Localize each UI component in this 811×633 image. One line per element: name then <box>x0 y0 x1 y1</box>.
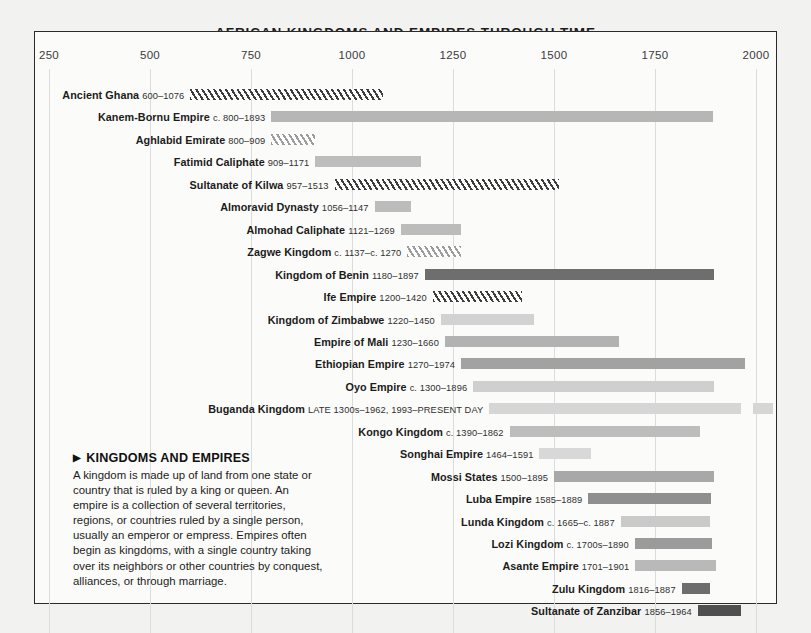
timeline-bar <box>461 358 745 369</box>
timeline-row-label: Kingdom of Benin 1180–1897 <box>275 269 419 281</box>
timeline-bar <box>335 179 560 190</box>
kingdom-dates: 1220–1450 <box>387 316 434 326</box>
timeline-row-label: Mossi States 1500–1895 <box>431 471 548 483</box>
kingdom-dates: c. 1300–1896 <box>410 383 468 393</box>
kingdom-name: Zagwe Kingdom <box>247 246 334 258</box>
timeline-row-label: Ife Empire 1200–1420 <box>324 291 427 303</box>
kingdom-name: Ethiopian Empire <box>315 358 408 370</box>
timeline-bar <box>441 314 534 325</box>
kingdom-dates: c. 800–1893 <box>213 113 265 123</box>
timeline-plot: 25050075010001250150017502000 Ancient Gh… <box>35 32 778 605</box>
timeline-row: Ethiopian Empire 1270–1974 <box>35 355 778 377</box>
kingdom-dates: 1500–1895 <box>501 473 548 483</box>
timeline-bar <box>588 493 711 504</box>
x-axis-tick-label: 1750 <box>642 49 669 61</box>
timeline-row-label: Almohad Caliphate 1121–1269 <box>246 224 394 236</box>
timeline-bar <box>698 605 742 616</box>
kingdom-dates: 1585–1889 <box>535 495 582 505</box>
timeline-row: Zagwe Kingdom c. 1137–c. 1270 <box>35 243 778 265</box>
timeline-row-label: Sultanate of Kilwa 957–1513 <box>190 179 329 191</box>
timeline-bar <box>539 448 590 459</box>
kingdom-dates: c. 1665–c. 1887 <box>547 518 615 528</box>
kingdom-name: Songhai Empire <box>400 448 486 460</box>
timeline-row: Ife Empire 1200–1420 <box>35 288 778 310</box>
timeline-row: Kanem-Bornu Empire c. 800–1893 <box>35 108 778 130</box>
timeline-row-label: Almoravid Dynasty 1056–1147 <box>220 201 368 213</box>
kingdom-name: Zulu Kingdom <box>552 583 628 595</box>
timeline-row: Oyo Empire c. 1300–1896 <box>35 378 778 400</box>
timeline-row-label: Buganda Kingdom LATE 1300s–1962, 1993–PR… <box>208 403 483 415</box>
timeline-row: Buganda Kingdom LATE 1300s–1962, 1993–PR… <box>35 400 778 422</box>
timeline-bar-segment-2 <box>753 403 773 414</box>
kingdom-name: Fatimid Caliphate <box>174 156 268 168</box>
x-axis-tick-label: 250 <box>39 49 59 61</box>
timeline-row: Almoravid Dynasty 1056–1147 <box>35 198 778 220</box>
x-axis-tick-label: 2000 <box>743 49 770 61</box>
kingdom-dates: 1056–1147 <box>322 203 369 213</box>
kingdom-name: Aghlabid Emirate <box>136 134 229 146</box>
kingdom-name: Almohad Caliphate <box>246 224 348 236</box>
timeline-row-label: Luba Empire 1585–1889 <box>466 493 582 505</box>
timeline-row-label: Sultanate of Zanzibar 1856–1964 <box>531 605 692 617</box>
kingdom-name: Sultanate of Zanzibar <box>531 605 644 617</box>
kingdom-dates: c. 1390–1862 <box>446 428 504 438</box>
timeline-row-label: Lozi Kingdom c. 1700s–1890 <box>491 538 628 550</box>
kingdom-dates: 957–1513 <box>286 181 328 191</box>
x-axis-tick-label: 1250 <box>440 49 467 61</box>
timeline-bar <box>271 134 315 145</box>
timeline-row-label: Kingdom of Zimbabwe 1220–1450 <box>268 314 435 326</box>
timeline-bar <box>433 291 522 302</box>
timeline-bar <box>401 224 461 235</box>
timeline-bar <box>425 269 715 280</box>
timeline-row: Sultanate of Kilwa 957–1513 <box>35 176 778 198</box>
timeline-row-label: Lunda Kingdom c. 1665–c. 1887 <box>461 516 615 528</box>
timeline-bar <box>375 201 412 212</box>
x-axis-tick-label: 500 <box>140 49 160 61</box>
x-axis-tick-label: 750 <box>241 49 261 61</box>
timeline-row-label: Fatimid Caliphate 909–1171 <box>174 156 309 168</box>
x-axis-tick-label: 1500 <box>541 49 568 61</box>
kingdom-name: Kanem-Bornu Empire <box>98 111 213 123</box>
timeline-row-label: Zulu Kingdom 1816–1887 <box>552 583 676 595</box>
timeline-row: Aghlabid Emirate 800–909 <box>35 131 778 153</box>
kingdom-dates: c. 1137–c. 1270 <box>334 248 401 258</box>
timeline-row-label: Asante Empire 1701–1901 <box>502 560 629 572</box>
triangle-right-icon: ▶ <box>73 453 81 463</box>
timeline-row-label: Empire of Mali 1230–1660 <box>314 336 439 348</box>
timeline-row: Ancient Ghana 600–1076 <box>35 86 778 108</box>
chart-frame: 25050075010001250150017502000 Ancient Gh… <box>34 31 777 604</box>
kingdom-name: Kingdom of Benin <box>275 269 372 281</box>
timeline-bar <box>445 336 619 347</box>
timeline-bar <box>489 403 740 414</box>
timeline-bar <box>682 583 711 594</box>
kingdom-name: Lunda Kingdom <box>461 516 547 528</box>
timeline-row: Kongo Kingdom c. 1390–1862 <box>35 423 778 445</box>
timeline-row-label: Oyo Empire c. 1300–1896 <box>345 381 467 393</box>
kingdom-name: Kongo Kingdom <box>358 426 446 438</box>
timeline-row-label: Kongo Kingdom c. 1390–1862 <box>358 426 503 438</box>
kingdom-name: Buganda Kingdom <box>208 403 308 415</box>
timeline-bar <box>621 516 711 527</box>
kingdom-name: Ancient Ghana <box>62 89 142 101</box>
info-box-title-text: KINGDOMS AND EMPIRES <box>86 451 250 465</box>
kingdom-name: Sultanate of Kilwa <box>190 179 287 191</box>
timeline-bar <box>554 471 714 482</box>
info-box-heading: ▶ KINGDOMS AND EMPIRES <box>73 451 323 465</box>
timeline-row: Almohad Caliphate 1121–1269 <box>35 221 778 243</box>
kingdom-dates: 800–909 <box>228 136 265 146</box>
timeline-row-label: Zagwe Kingdom c. 1137–c. 1270 <box>247 246 401 258</box>
info-box-body: A kingdom is made up of land from one st… <box>73 468 323 589</box>
timeline-row: Fatimid Caliphate 909–1171 <box>35 153 778 175</box>
kingdom-dates: c. 1700s–1890 <box>566 540 628 550</box>
timeline-bar <box>635 538 712 549</box>
kingdom-name: Lozi Kingdom <box>491 538 566 550</box>
timeline-row-label: Ancient Ghana 600–1076 <box>62 89 184 101</box>
timeline-row: Kingdom of Benin 1180–1897 <box>35 266 778 288</box>
kingdom-dates: LATE 1300s–1962, 1993–PRESENT DAY <box>308 405 483 415</box>
kingdom-dates: 1230–1660 <box>391 338 438 348</box>
kingdom-dates: 1200–1420 <box>379 293 426 303</box>
kingdom-dates: 1464–1591 <box>486 450 533 460</box>
kingdom-dates: 1270–1974 <box>408 360 455 370</box>
kingdom-name: Almoravid Dynasty <box>220 201 322 213</box>
kingdom-dates: 600–1076 <box>142 91 184 101</box>
